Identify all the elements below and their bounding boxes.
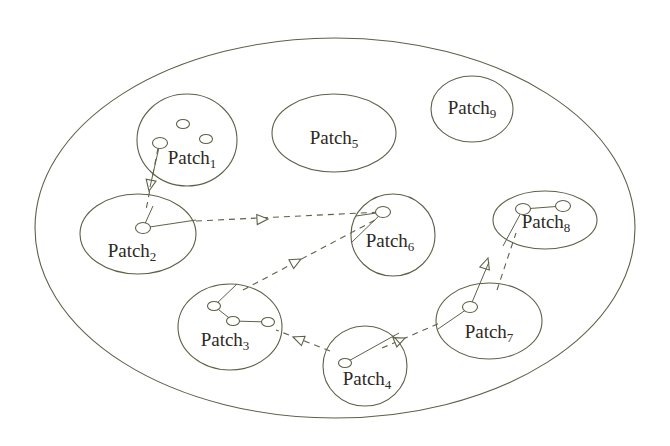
patch-group-patch4[interactable]: Patch4 bbox=[323, 326, 407, 406]
diagram-canvas: Patch1Patch2Patch3Patch4Patch5Patch6Patc… bbox=[0, 0, 670, 446]
patch3-label-subscript: 3 bbox=[243, 338, 250, 353]
patch1-ellipse[interactable] bbox=[137, 94, 237, 186]
patch1-node-3[interactable] bbox=[153, 138, 168, 149]
patch1-node-1[interactable] bbox=[177, 120, 190, 129]
arrow-patch3-to-patch6 bbox=[243, 218, 379, 290]
patch4-node-1[interactable] bbox=[339, 359, 352, 368]
patch2-label-subscript: 2 bbox=[150, 249, 157, 264]
patch6-label-subscript: 6 bbox=[408, 239, 415, 254]
patch6-label-text: Patch bbox=[366, 230, 409, 251]
patch4-label-text: Patch bbox=[343, 368, 386, 389]
patch3-node-3[interactable] bbox=[262, 318, 275, 327]
patch8-label-subscript: 8 bbox=[564, 220, 571, 235]
patch7-label: Patch7 bbox=[465, 321, 514, 345]
patch3-ellipse[interactable] bbox=[178, 284, 282, 370]
patch9-label-text: Patch bbox=[448, 97, 491, 118]
patch9-label-subscript: 9 bbox=[490, 106, 497, 121]
arrow-patch4-to-patch3 bbox=[276, 330, 330, 351]
patch-group-patch3[interactable]: Patch3 bbox=[178, 284, 282, 370]
patch4-label-subscript: 4 bbox=[385, 377, 392, 392]
patch5-label-subscript: 5 bbox=[352, 136, 359, 151]
link-patch4-node-to-upper-right bbox=[345, 333, 399, 363]
arrow-layer bbox=[144, 148, 516, 351]
arrow-patch3-to-patch6-line bbox=[243, 218, 379, 290]
patch4-label: Patch4 bbox=[343, 368, 392, 392]
patch1-label-text: Patch bbox=[168, 147, 211, 168]
patch-group-patch1[interactable]: Patch1 bbox=[137, 94, 237, 186]
patch3-label-text: Patch bbox=[201, 329, 244, 350]
arrow-patch4-to-patch7 bbox=[382, 323, 440, 348]
patch3-node-1[interactable] bbox=[208, 302, 221, 311]
patch7-label-subscript: 7 bbox=[507, 330, 514, 345]
arrow-patch4-to-patch3-head bbox=[291, 332, 305, 345]
patch9-label: Patch9 bbox=[448, 97, 497, 121]
patch1-label: Patch1 bbox=[168, 147, 217, 171]
patch-group-patch2[interactable]: Patch2 bbox=[80, 194, 196, 274]
patch4-ellipse[interactable] bbox=[323, 326, 407, 406]
patch2-label: Patch2 bbox=[108, 240, 157, 264]
patch-group-patch6[interactable]: Patch6 bbox=[351, 194, 435, 276]
patch-group-patch8[interactable]: Patch8 bbox=[493, 191, 597, 249]
patch3-node-2[interactable] bbox=[227, 317, 240, 326]
link-patch1-node-to-lower bbox=[150, 143, 160, 187]
patch2-node-1[interactable] bbox=[136, 223, 151, 234]
patch2-ellipse[interactable] bbox=[80, 194, 196, 274]
patch6-label: Patch6 bbox=[366, 230, 415, 254]
patch-graph-svg: Patch1Patch2Patch3Patch4Patch5Patch6Patc… bbox=[0, 0, 670, 446]
arrow-patch3-to-patch6-head bbox=[289, 255, 303, 269]
patch5-label-text: Patch bbox=[310, 127, 353, 148]
patch8-label-text: Patch bbox=[522, 211, 565, 232]
patch-group-patch7[interactable]: Patch7 bbox=[436, 283, 542, 359]
patch1-label-subscript: 1 bbox=[210, 156, 217, 171]
patch2-label-text: Patch bbox=[108, 240, 151, 261]
patch5-label: Patch5 bbox=[310, 127, 359, 151]
patch6-node-1[interactable] bbox=[376, 207, 391, 218]
arrow-patch1-to-patch2 bbox=[144, 148, 158, 210]
patch-group-patch5[interactable]: Patch5 bbox=[272, 94, 396, 172]
patch3-label: Patch3 bbox=[201, 329, 250, 353]
patch8-label: Patch8 bbox=[522, 211, 571, 235]
patch1-node-2[interactable] bbox=[200, 135, 213, 144]
arrow-patch4-to-patch7-line bbox=[382, 323, 440, 348]
link-patch2-node-to-right bbox=[143, 220, 196, 228]
arrow-patch7-to-patch8-line bbox=[497, 233, 516, 290]
arrow-patch2-to-patch6-head bbox=[257, 214, 269, 225]
patch-group-patch9[interactable]: Patch9 bbox=[431, 76, 513, 142]
patch7-node-1[interactable] bbox=[463, 302, 478, 313]
patch7-label-text: Patch bbox=[465, 321, 508, 342]
patch8-node-2[interactable] bbox=[556, 201, 571, 212]
